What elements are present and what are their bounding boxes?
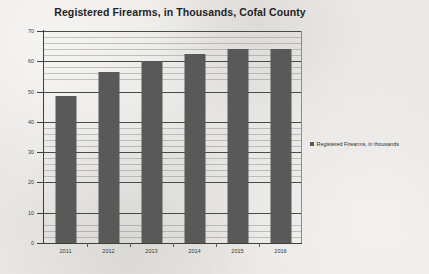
x-tick-2 bbox=[130, 243, 131, 247]
y-axis-label-70: 70 bbox=[0, 28, 34, 34]
y-tick-10 bbox=[37, 213, 44, 214]
plot-area bbox=[44, 31, 302, 243]
y-tick-40 bbox=[37, 122, 44, 123]
y-tick-70 bbox=[37, 31, 44, 32]
bars-layer bbox=[44, 31, 302, 243]
x-tick-4 bbox=[216, 243, 217, 247]
y-tick-20 bbox=[37, 182, 44, 183]
legend-entry-label: Registered Firearms, in thousands bbox=[317, 141, 399, 147]
x-tick-3 bbox=[173, 243, 174, 247]
bar-2012[interactable] bbox=[98, 72, 119, 243]
y-tick-50 bbox=[37, 92, 44, 93]
y-tick-60 bbox=[37, 61, 44, 62]
x-axis-label-2015: 2015 bbox=[216, 248, 260, 254]
x-axis-label-2013: 2013 bbox=[130, 248, 174, 254]
bar-slot-2013 bbox=[130, 31, 173, 243]
chart-title: Registered Firearms, in Thousands, Cofal… bbox=[0, 6, 360, 18]
bar-slot-2011 bbox=[44, 31, 87, 243]
y-tick-0 bbox=[37, 243, 44, 244]
bar-2011[interactable] bbox=[55, 96, 76, 243]
y-axis-label-10: 10 bbox=[0, 210, 34, 216]
x-axis-label-2016: 2016 bbox=[259, 248, 303, 254]
bar-2016[interactable] bbox=[270, 49, 291, 243]
y-axis-label-0: 0 bbox=[0, 240, 34, 246]
bar-2013[interactable] bbox=[141, 61, 162, 243]
chart-legend: Registered Firearms, in thousands bbox=[310, 141, 399, 147]
y-axis-label-40: 40 bbox=[0, 119, 34, 125]
y-axis-label-60: 60 bbox=[0, 58, 34, 64]
legend-swatch-icon bbox=[310, 142, 314, 146]
x-axis-label-2011: 2011 bbox=[44, 248, 88, 254]
y-axis-label-30: 30 bbox=[0, 149, 34, 155]
y-tick-30 bbox=[37, 152, 44, 153]
x-axis-label-2012: 2012 bbox=[87, 248, 131, 254]
x-axis-label-2014: 2014 bbox=[173, 248, 217, 254]
bar-slot-2015 bbox=[216, 31, 259, 243]
bar-2015[interactable] bbox=[227, 49, 248, 243]
bar-2014[interactable] bbox=[184, 54, 205, 243]
y-axis-label-20: 20 bbox=[0, 179, 34, 185]
y-axis-label-50: 50 bbox=[0, 89, 34, 95]
x-tick-5 bbox=[259, 243, 260, 247]
x-tick-1 bbox=[87, 243, 88, 247]
bar-slot-2014 bbox=[173, 31, 216, 243]
bar-slot-2016 bbox=[259, 31, 302, 243]
bar-slot-2012 bbox=[87, 31, 130, 243]
